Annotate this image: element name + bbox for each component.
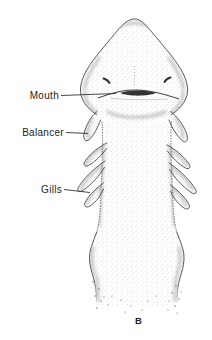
balancer-label: Balancer xyxy=(22,127,64,138)
gills-leader-line xyxy=(64,190,90,193)
larva-illustration: Mouth Balancer Gills B xyxy=(0,0,212,340)
mouth-label: Mouth xyxy=(30,90,59,101)
figure-panel: Mouth Balancer Gills B xyxy=(0,0,212,340)
stipple-texture xyxy=(60,10,210,320)
gills-label: Gills xyxy=(41,184,62,195)
figure-caption: B xyxy=(135,315,142,326)
